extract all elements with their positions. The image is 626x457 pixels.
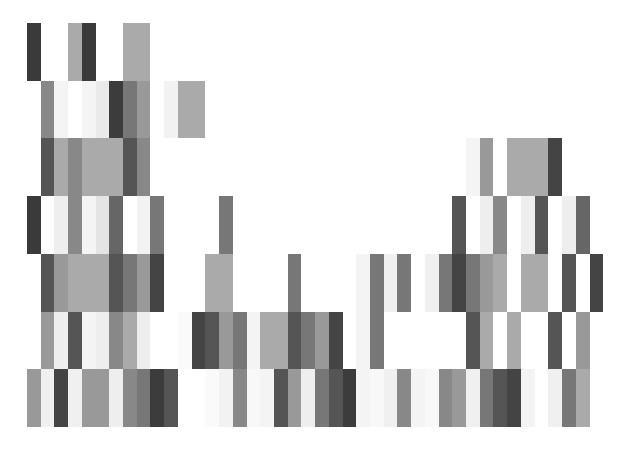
pattern-cell — [411, 369, 425, 427]
pattern-cell — [439, 369, 452, 427]
pattern-cell — [493, 369, 507, 427]
pattern-cell — [343, 369, 356, 427]
pattern-cell — [164, 81, 178, 138]
pattern-cell — [68, 138, 82, 196]
pattern-cell — [109, 369, 123, 427]
pattern-cell — [82, 196, 96, 254]
pattern-cell — [82, 23, 96, 81]
pattern-cell — [425, 369, 439, 427]
pattern-cell — [68, 312, 82, 369]
pattern-cell — [452, 196, 466, 254]
pattern-cell — [178, 312, 192, 369]
pattern-cell — [54, 312, 68, 369]
pattern-cell — [507, 369, 521, 427]
pattern-cell — [68, 23, 82, 81]
pattern-cell — [96, 81, 109, 138]
pattern-cell — [233, 369, 247, 427]
pattern-cell — [562, 196, 576, 254]
pattern-cell — [96, 369, 109, 427]
pattern-cell — [315, 369, 329, 427]
pattern-cell — [123, 369, 137, 427]
pattern-cell — [150, 369, 164, 427]
pattern-cell — [96, 254, 109, 312]
pattern-cell — [137, 369, 150, 427]
pattern-cell — [109, 312, 123, 369]
pattern-cell — [535, 196, 548, 254]
pattern-cell — [137, 138, 150, 196]
pattern-cell — [397, 369, 411, 427]
pattern-cell — [370, 369, 384, 427]
pattern-cell — [535, 254, 548, 312]
pattern-cell — [123, 312, 137, 369]
pattern-cell — [576, 196, 590, 254]
pattern-cell — [452, 254, 466, 312]
grayscale-bar-pattern — [0, 0, 626, 457]
pattern-cell — [370, 254, 384, 312]
pattern-cell — [480, 254, 493, 312]
pattern-cell — [548, 369, 562, 427]
pattern-cell — [27, 196, 41, 254]
pattern-cell — [164, 369, 178, 427]
pattern-cell — [466, 138, 480, 196]
pattern-cell — [41, 138, 54, 196]
pattern-cell — [27, 369, 41, 427]
pattern-cell — [493, 196, 507, 254]
pattern-cell — [274, 369, 288, 427]
pattern-cell — [288, 369, 301, 427]
pattern-cell — [521, 254, 535, 312]
pattern-cell — [425, 254, 439, 312]
pattern-cell — [356, 312, 370, 369]
pattern-cell — [109, 81, 123, 138]
pattern-cell — [82, 254, 96, 312]
pattern-cell — [96, 138, 109, 196]
pattern-cell — [260, 369, 274, 427]
pattern-cell — [576, 312, 590, 369]
pattern-cell — [137, 23, 150, 81]
pattern-cell — [562, 254, 576, 312]
pattern-cell — [82, 138, 96, 196]
pattern-cell — [219, 312, 233, 369]
pattern-cell — [562, 369, 576, 427]
pattern-cell — [123, 81, 137, 138]
pattern-cell — [356, 369, 370, 427]
pattern-cell — [54, 254, 68, 312]
pattern-cell — [137, 81, 150, 138]
pattern-cell — [68, 254, 82, 312]
pattern-cell — [480, 196, 493, 254]
pattern-cell — [274, 312, 288, 369]
pattern-cell — [82, 369, 96, 427]
pattern-cell — [96, 196, 109, 254]
pattern-cell — [219, 254, 233, 312]
pattern-cell — [96, 312, 109, 369]
pattern-cell — [288, 254, 301, 312]
pattern-cell — [205, 369, 219, 427]
pattern-cell — [137, 254, 150, 312]
pattern-cell — [480, 138, 493, 196]
pattern-cell — [370, 312, 384, 369]
pattern-cell — [54, 369, 68, 427]
pattern-cell — [548, 312, 562, 369]
pattern-cell — [192, 312, 205, 369]
pattern-cell — [329, 369, 343, 427]
pattern-cell — [397, 254, 411, 312]
pattern-cell — [137, 196, 150, 254]
pattern-cell — [384, 369, 397, 427]
pattern-cell — [466, 312, 480, 369]
pattern-cell — [68, 369, 82, 427]
pattern-cell — [54, 196, 68, 254]
pattern-cell — [150, 196, 164, 254]
pattern-cell — [480, 369, 493, 427]
pattern-cell — [233, 312, 247, 369]
pattern-cell — [315, 312, 329, 369]
pattern-cell — [41, 81, 54, 138]
pattern-cell — [548, 138, 562, 196]
pattern-cell — [493, 254, 507, 312]
pattern-cell — [68, 196, 82, 254]
pattern-cell — [123, 138, 137, 196]
pattern-cell — [205, 254, 219, 312]
pattern-cell — [452, 369, 466, 427]
pattern-cell — [521, 196, 535, 254]
pattern-cell — [192, 81, 205, 138]
pattern-cell — [27, 23, 41, 81]
pattern-cell — [466, 254, 480, 312]
